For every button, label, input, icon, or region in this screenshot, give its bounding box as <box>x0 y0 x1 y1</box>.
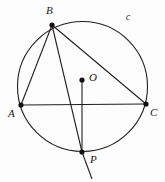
segment-BC <box>52 25 146 104</box>
segment-AC <box>21 104 146 105</box>
figure-canvas <box>0 0 165 182</box>
point-P <box>79 149 84 154</box>
label-circle-c: c <box>126 13 130 23</box>
label-B: B <box>46 5 53 16</box>
point-B <box>49 22 54 27</box>
point-C <box>143 101 148 106</box>
label-O: O <box>89 72 97 83</box>
segment-BP <box>52 25 82 152</box>
segment-BA <box>21 25 52 105</box>
label-P: P <box>90 154 97 165</box>
label-A: A <box>8 108 15 119</box>
geometry-figure: B A C O P c <box>0 0 165 182</box>
point-O <box>79 77 84 82</box>
point-A <box>18 102 23 107</box>
label-C: C <box>150 107 157 118</box>
